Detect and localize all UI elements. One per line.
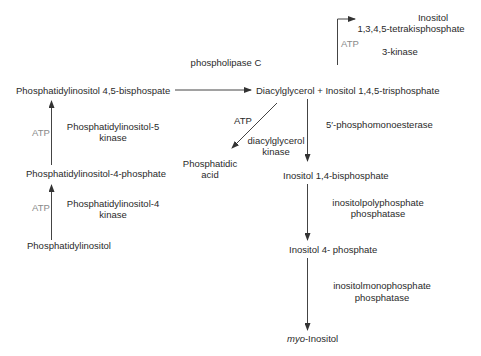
enzyme-dgk-line1: diacylglycerol: [247, 135, 304, 146]
enzyme-5-phosphomonoesterase: 5′-phosphomonoesterase: [326, 119, 433, 130]
enzyme-pi4k-line2: kinase: [99, 209, 126, 220]
node-pip2: Phosphatidylinositol 4,5-bisphospate: [16, 85, 170, 96]
enzyme-ipp-line2: phosphatase: [351, 208, 405, 219]
cofactor-atp-pi4k: ATP: [32, 202, 50, 213]
enzyme-3-kinase: 3-kinase: [382, 46, 418, 57]
enzyme-phospholipase-c: phospholipase C: [191, 57, 262, 68]
node-ip4-line2: 1,3,4,5-tetrakisphosphate: [357, 23, 464, 34]
inositol-suffix: -Inositol: [305, 333, 338, 344]
enzyme-pip5k-line2: kinase: [99, 132, 126, 143]
cofactor-atp-dgk: ATP: [234, 115, 252, 126]
cofactor-atp-pip5k: ATP: [32, 127, 50, 138]
myo-prefix: myo: [287, 333, 305, 344]
node-ip2: Inositol 1,4-bisphosphate: [283, 170, 389, 181]
enzyme-imp-line2: phosphatase: [355, 292, 409, 303]
node-myo-inositol: myo-Inositol: [287, 333, 338, 344]
enzyme-pip5k-line1: Phosphatidylinositol-5: [67, 121, 159, 132]
node-dag-ip3: Diacylglycerol + Inositol 1,4,5-trisphos…: [256, 85, 440, 96]
node-ip4-line1: Inositol: [418, 12, 448, 23]
enzyme-ipp-line1: inositolpolyphosphate: [332, 197, 423, 208]
enzyme-pi4k-line1: Phosphatidylinositol-4: [67, 198, 159, 209]
node-ip1: Inositol 4- phosphate: [289, 244, 377, 255]
node-pi: Phosphatidylinositol: [27, 240, 111, 251]
enzyme-dgk-line2: kinase: [262, 146, 289, 157]
node-pa-line1: Phosphatidic: [183, 158, 237, 169]
node-pi4p: Phosphatidylinositol-4-phosphate: [26, 168, 166, 179]
node-pa-line2: acid: [201, 169, 218, 180]
enzyme-imp-line1: inositolmonophosphate: [333, 280, 431, 291]
cofactor-atp-ip3k: ATP: [341, 38, 359, 49]
